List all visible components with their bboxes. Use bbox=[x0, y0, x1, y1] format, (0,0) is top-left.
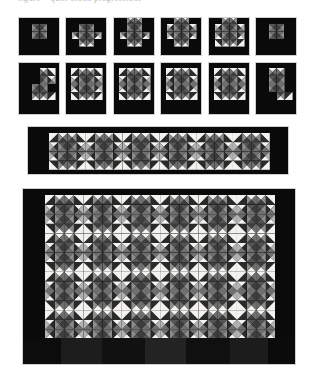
unit-quarter-square-triangle bbox=[112, 291, 122, 301]
unit-quarter-square-triangle bbox=[103, 243, 113, 253]
unit-quarter-square-triangle bbox=[160, 320, 170, 330]
unit-half-square-triangle bbox=[196, 133, 205, 142]
unit-quarter-square-triangle bbox=[247, 301, 257, 311]
unit-quarter-square-triangle bbox=[266, 205, 276, 215]
unit-quarter-square-triangle bbox=[230, 39, 238, 47]
unit-quarter-square-triangle bbox=[135, 68, 143, 76]
quilt-block bbox=[167, 17, 197, 47]
unit-quarter-square-triangle bbox=[189, 253, 199, 263]
unit-quarter-square-triangle bbox=[122, 214, 132, 224]
unit-half-square-triangle bbox=[83, 224, 93, 234]
unit-half-square-triangle bbox=[160, 310, 170, 320]
unit-quarter-square-triangle bbox=[67, 142, 76, 151]
quilt-sample-panel bbox=[160, 17, 202, 56]
unit-half-square-triangle bbox=[214, 92, 222, 100]
unit-quarter-square-triangle bbox=[94, 32, 102, 40]
unit-quarter-square-triangle bbox=[189, 320, 199, 330]
triangle-br bbox=[227, 262, 237, 272]
unit-blank bbox=[32, 17, 40, 24]
unit-quarter-square-triangle bbox=[205, 142, 214, 151]
triangle-tr bbox=[77, 133, 86, 142]
unit-quarter-square-triangle bbox=[256, 233, 266, 243]
unit-blank bbox=[284, 32, 292, 40]
unit-quarter-square-triangle bbox=[131, 214, 141, 224]
unit-half-square-triangle bbox=[122, 301, 132, 311]
unit-quarter-square-triangle bbox=[141, 320, 151, 330]
unit-blank bbox=[189, 39, 197, 47]
unit-quarter-square-triangle bbox=[169, 133, 178, 142]
unit-quarter-square-triangle bbox=[189, 24, 197, 32]
unit-half-square-triangle bbox=[227, 301, 237, 311]
border-strip-panel bbox=[27, 126, 289, 175]
unit-half-square-triangle bbox=[112, 310, 122, 320]
unit-quarter-square-triangle bbox=[55, 233, 65, 243]
unit-quarter-square-triangle bbox=[83, 320, 93, 330]
triangle-tl bbox=[159, 133, 168, 142]
unit-half-square-triangle bbox=[45, 301, 55, 311]
unit-quarter-square-triangle bbox=[218, 253, 228, 263]
unit-quarter-square-triangle bbox=[103, 301, 113, 311]
unit-quarter-square-triangle bbox=[103, 214, 113, 224]
unit-quarter-square-triangle bbox=[104, 133, 113, 142]
unit-half-square-triangle bbox=[199, 310, 209, 320]
unit-quarter-square-triangle bbox=[135, 24, 143, 32]
unit-quarter-square-triangle bbox=[64, 262, 74, 272]
unit-quarter-square-triangle bbox=[208, 272, 218, 282]
unit-half-square-triangle bbox=[151, 195, 161, 205]
triangle-br bbox=[190, 92, 198, 100]
unit-quarter-square-triangle bbox=[127, 17, 135, 24]
unit-quarter-square-triangle bbox=[179, 253, 189, 263]
triangle-tr bbox=[74, 195, 84, 205]
unit-quarter-square-triangle bbox=[269, 76, 277, 84]
unit-half-square-triangle bbox=[189, 233, 199, 243]
unit-half-square-triangle bbox=[227, 310, 237, 320]
page-root: figure – quilt block progressions bbox=[0, 0, 316, 372]
unit-quarter-square-triangle bbox=[55, 224, 65, 234]
unit-half-square-triangle bbox=[160, 195, 170, 205]
unit-quarter-square-triangle bbox=[189, 214, 199, 224]
unit-quarter-square-triangle bbox=[205, 161, 214, 170]
triangle-tl bbox=[49, 133, 58, 142]
unit-blank bbox=[32, 39, 40, 47]
unit-half-square-triangle bbox=[187, 161, 196, 170]
unit-quarter-square-triangle bbox=[222, 84, 230, 92]
unit-quarter-square-triangle bbox=[256, 262, 266, 272]
unit-half-square-triangle bbox=[237, 39, 245, 47]
unit-quarter-square-triangle bbox=[182, 68, 190, 76]
unit-quarter-square-triangle bbox=[87, 76, 95, 84]
unit-quarter-square-triangle bbox=[247, 291, 257, 301]
triangle-bl bbox=[71, 92, 79, 100]
unit-half-square-triangle bbox=[166, 68, 174, 76]
unit-quarter-square-triangle bbox=[55, 272, 65, 282]
triangle-bl bbox=[49, 161, 58, 170]
unit-quarter-square-triangle bbox=[135, 17, 143, 24]
unit-half-square-triangle bbox=[237, 233, 247, 243]
unit-quarter-square-triangle bbox=[64, 281, 74, 291]
unit-blank bbox=[24, 84, 32, 92]
unit-quarter-square-triangle bbox=[256, 205, 266, 215]
unit-quarter-square-triangle bbox=[141, 224, 151, 234]
unit-quarter-square-triangle bbox=[122, 320, 132, 330]
triangle-tr bbox=[112, 272, 122, 282]
triangle-tr bbox=[112, 195, 122, 205]
unit-half-square-triangle bbox=[237, 195, 247, 205]
unit-half-square-triangle bbox=[74, 272, 84, 282]
unit-quarter-square-triangle bbox=[237, 253, 247, 263]
unit-quarter-square-triangle bbox=[182, 92, 190, 100]
unit-quarter-square-triangle bbox=[86, 151, 95, 160]
unit-half-square-triangle bbox=[74, 301, 84, 311]
unit-quarter-square-triangle bbox=[256, 310, 266, 320]
quilt-block bbox=[119, 68, 151, 100]
unit-quarter-square-triangle bbox=[256, 224, 266, 234]
unit-quarter-square-triangle bbox=[151, 291, 161, 301]
unit-half-square-triangle bbox=[189, 310, 199, 320]
second-block-row bbox=[18, 62, 297, 115]
unit-quarter-square-triangle bbox=[179, 233, 189, 243]
unit-quarter-square-triangle bbox=[170, 291, 180, 301]
unit-quarter-square-triangle bbox=[64, 205, 74, 215]
triangle-bl bbox=[123, 161, 132, 170]
triangle-tr bbox=[189, 195, 199, 205]
unit-half-square-triangle bbox=[215, 39, 223, 47]
triangle-tl bbox=[214, 68, 222, 76]
unit-quarter-square-triangle bbox=[190, 84, 198, 92]
